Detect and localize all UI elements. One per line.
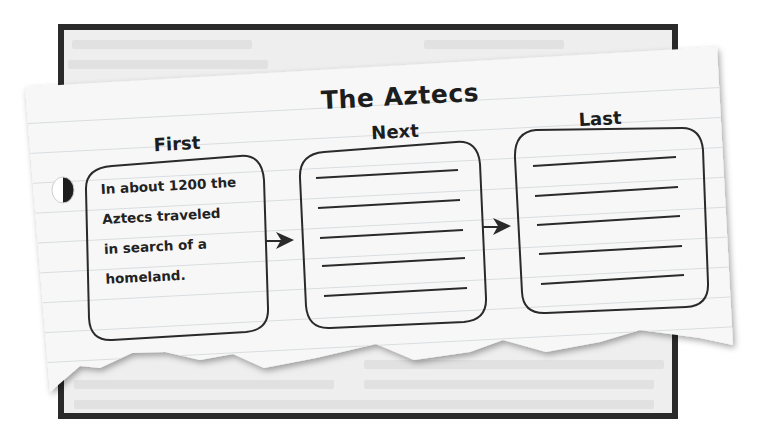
hole-punch-icon bbox=[52, 177, 74, 203]
first-box-text: In about 1200 the Aztecs traveled in sea… bbox=[100, 166, 266, 294]
graphic-organizer-stage: The Aztecs First Next Last In about 1200… bbox=[0, 0, 768, 437]
